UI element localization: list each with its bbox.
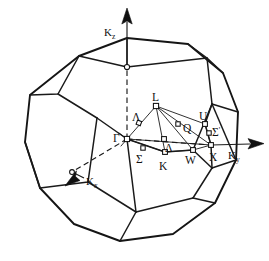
axis-label-kx: Kx — [86, 175, 98, 190]
point-labels: Kz Ky Kx Γ L U X W K Q Λ — [86, 26, 240, 190]
kz-arrow-head — [122, 8, 132, 24]
marker-delta — [162, 137, 167, 142]
point-label-x: X — [209, 151, 218, 163]
axis-label-kz: Kz — [104, 26, 116, 41]
marker-kz-face — [124, 64, 129, 69]
point-label-l: L — [152, 91, 159, 103]
marker-l — [153, 103, 158, 108]
point-label-delta: Δ — [165, 142, 172, 154]
ky-arrow-head — [248, 139, 264, 149]
marker-sigma-prime — [207, 131, 211, 135]
point-label-w: W — [185, 154, 196, 166]
marker-w — [191, 148, 196, 153]
marker-x — [209, 143, 214, 148]
point-label-q: Q — [183, 122, 192, 134]
point-label-lambda: Λ — [132, 111, 141, 123]
marker-gamma — [124, 136, 129, 141]
brillouin-zone-svg: Kz Ky Kx Γ L U X W K Q Λ — [0, 0, 269, 261]
brillouin-zone-figure: Kz Ky Kx Γ L U X W K Q Λ — [0, 0, 269, 261]
marker-kx-face — [70, 170, 75, 175]
point-label-gamma: Γ — [113, 132, 120, 144]
marker-q — [176, 122, 180, 126]
marker-u — [203, 122, 208, 127]
point-label-k: K — [159, 160, 168, 172]
line-l-k — [156, 106, 165, 152]
point-label-sigma-prime: Σ' — [212, 126, 221, 138]
point-label-u: U — [199, 110, 208, 122]
marker-sigma — [141, 146, 145, 150]
point-label-sigma: Σ — [136, 153, 143, 165]
